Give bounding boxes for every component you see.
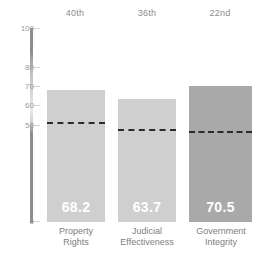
bar-value-property-rights: 68.2: [47, 199, 105, 215]
category-label-judicial-effectiveness: Judicial Effectiveness: [107, 226, 187, 248]
category-label-line-1: Judicial: [107, 226, 187, 237]
rank-label-property-rights: 40th: [40, 8, 110, 18]
bar-property-rights[interactable]: 68.2: [47, 90, 105, 222]
reference-line-judicial-effectiveness: [118, 129, 176, 131]
category-label-line-1: Government: [183, 226, 259, 237]
category-label-line-1: Property: [41, 226, 111, 237]
category-label-line-2: Integrity: [183, 237, 259, 248]
plot-area: 100 80 70 60 50 0 68.2: [0, 26, 260, 224]
rank-label-government-integrity: 22nd: [185, 8, 255, 18]
category-label-government-integrity: Government Integrity: [183, 226, 259, 248]
category-label-line-2: Effectiveness: [107, 237, 187, 248]
bar-value-government-integrity: 70.5: [189, 199, 252, 215]
category-label-row: Property Rights Judicial Effectiveness G…: [0, 226, 260, 258]
category-label-line-2: Rights: [41, 237, 111, 248]
category-label-property-rights: Property Rights: [41, 226, 111, 248]
bar-government-integrity[interactable]: 70.5: [189, 86, 252, 222]
rank-header-row: 40th 36th 22nd: [0, 0, 260, 26]
chart-container: 40th 36th 22nd 100 80 70 60 50 0: [0, 0, 260, 258]
bar-group: 68.2 63.7 70.5: [0, 26, 260, 224]
bar-value-judicial-effectiveness: 63.7: [118, 199, 176, 215]
reference-line-government-integrity: [189, 131, 252, 133]
rank-label-judicial-effectiveness: 36th: [112, 8, 182, 18]
reference-line-property-rights: [47, 122, 105, 124]
bar-judicial-effectiveness[interactable]: 63.7: [118, 99, 176, 222]
